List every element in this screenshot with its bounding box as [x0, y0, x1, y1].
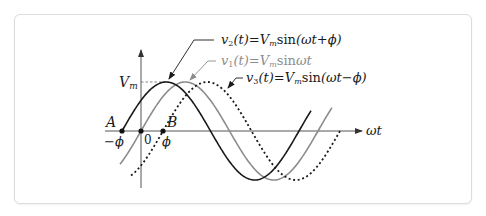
leader-v3: [228, 78, 243, 88]
equation-v1: v1(t)=Vmsinωt: [221, 53, 313, 69]
label-zero: 0: [144, 133, 152, 147]
label-a: A: [104, 114, 116, 130]
label-phi: ϕ: [162, 134, 171, 149]
label-b: B: [166, 114, 177, 130]
equation-v3: v3(t)=Vmsin(ωt−ϕ): [246, 70, 367, 86]
point-b: [160, 128, 165, 133]
label-omega-t: ωt: [366, 123, 383, 138]
label-neg-phi: −ϕ: [104, 134, 124, 149]
leader-v2: [169, 40, 214, 79]
point-a: [119, 128, 124, 133]
sine-phase-diagram: Vm A B 0 −ϕ ϕ ωt v2(t)=Vmsin(ωt+ϕ) v1(t)…: [0, 0, 486, 216]
vm-label: Vm: [119, 74, 138, 91]
leader-v1: [190, 61, 216, 80]
point-origin: [138, 128, 143, 133]
equation-v2: v2(t)=Vmsin(ωt+ϕ): [221, 32, 342, 48]
